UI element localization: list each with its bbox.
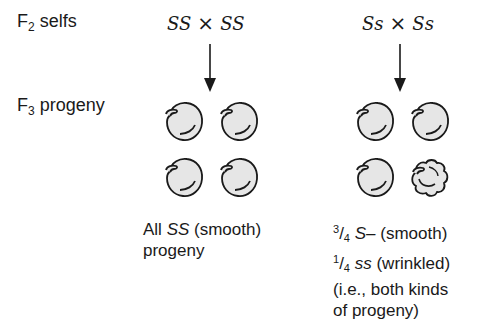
- f2-text: selfs: [40, 11, 77, 31]
- f2-prefix: F: [17, 11, 28, 31]
- smooth-pea-icon: [216, 99, 262, 145]
- f3-text: progeny: [40, 95, 105, 115]
- cross-ss-by-ss: SS×SS: [167, 11, 244, 35]
- caption-right-line1: 3/4 S– (smooth): [333, 219, 450, 249]
- caption-text: (wrinkled): [372, 254, 450, 273]
- cross-Ss-by-Ss: Ss×Ss: [362, 11, 434, 35]
- caption-text: (smooth): [376, 224, 448, 243]
- caption-right: 3/4 S– (smooth) 1/4 ss (wrinkled) (i.e.,…: [333, 219, 450, 321]
- f3-prefix: F: [17, 95, 28, 115]
- genotype: S–: [355, 224, 376, 243]
- smooth-pea-icon: [352, 99, 398, 145]
- caption-right-line3: (i.e., both kinds: [333, 279, 450, 300]
- genotype: ss: [355, 254, 372, 273]
- down-arrow-icon: [390, 44, 410, 94]
- fraction-denominator: 4: [344, 262, 350, 274]
- caption-right-line2: 1/4 ss (wrinkled): [333, 249, 450, 279]
- smooth-pea-icon: [161, 99, 207, 145]
- f3-progeny-label: F3 progeny: [17, 95, 105, 118]
- fraction-denominator: 4: [344, 232, 350, 244]
- down-arrow-icon: [200, 44, 220, 94]
- cross-right-genotype: Ss: [412, 13, 434, 34]
- cross-right-genotype: SS: [220, 13, 244, 34]
- smooth-pea-icon: [216, 155, 262, 201]
- caption-right-line4: of progeny): [333, 300, 450, 321]
- f3-subscript: 3: [28, 104, 35, 118]
- cross-operator: ×: [197, 11, 214, 35]
- f2-selfs-label: F2 selfs: [17, 11, 77, 34]
- cross-operator: ×: [390, 11, 407, 35]
- caption-left-line1: All SS (smooth): [143, 219, 261, 240]
- caption-text: All: [143, 220, 167, 239]
- caption-text: (smooth): [189, 220, 261, 239]
- caption-left-line2: progeny: [143, 240, 261, 261]
- cross-left-genotype: Ss: [362, 13, 384, 34]
- wrinkled-pea-icon: [407, 155, 453, 201]
- smooth-pea-icon: [352, 155, 398, 201]
- caption-left: All SS (smooth) progeny: [143, 219, 261, 261]
- smooth-pea-icon: [407, 99, 453, 145]
- genotype: SS: [167, 220, 190, 239]
- f2-subscript: 2: [28, 20, 35, 34]
- cross-left-genotype: SS: [167, 13, 191, 34]
- smooth-pea-icon: [161, 155, 207, 201]
